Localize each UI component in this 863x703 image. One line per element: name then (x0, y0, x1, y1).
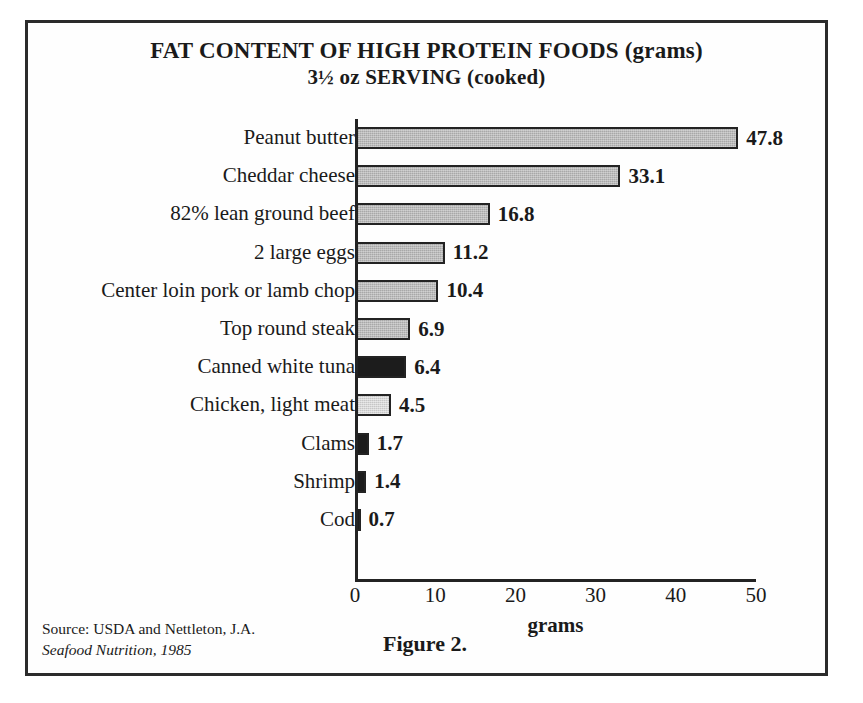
chart-title: FAT CONTENT OF HIGH PROTEIN FOODS (grams… (28, 37, 825, 91)
source-note-line-2: Seafood Nutrition, 1985 (42, 640, 255, 661)
bar-value-label: 10.4 (446, 280, 483, 301)
category-label: Center loin pork or lamb chop (35, 280, 364, 301)
bar-container: 33.1 (355, 157, 825, 195)
bar-row: 2 large eggs11.2 (28, 234, 825, 272)
bar-container: 1.4 (355, 463, 825, 501)
bar-row: Chicken, light meat4.5 (28, 386, 825, 424)
bar-row: Cod0.7 (28, 501, 825, 539)
x-tick-label: 20 (505, 585, 526, 606)
category-label: Peanut butter (35, 127, 364, 148)
bar (355, 242, 445, 264)
category-label: Cheddar cheese (35, 165, 364, 186)
bar-container: 1.7 (355, 425, 825, 463)
bar-value-label: 1.7 (377, 433, 403, 454)
bar (355, 280, 438, 302)
figure-frame: FAT CONTENT OF HIGH PROTEIN FOODS (grams… (25, 20, 828, 676)
bar-value-label: 6.4 (414, 357, 440, 378)
bar (355, 356, 406, 378)
category-label: Cod (35, 509, 364, 530)
bar-container: 6.9 (355, 310, 825, 348)
category-label: Shrimp (35, 471, 364, 492)
bar-row: 82% lean ground beef16.8 (28, 195, 825, 233)
bar-value-label: 0.7 (369, 509, 395, 530)
bar-container: 47.8 (355, 119, 825, 157)
source-note: Source: USDA and Nettleton, J.A. Seafood… (42, 619, 255, 661)
bar-container: 11.2 (355, 234, 825, 272)
category-label: Canned white tuna (35, 356, 364, 377)
chart-title-line-1: FAT CONTENT OF HIGH PROTEIN FOODS (grams… (28, 37, 825, 65)
category-label: Clams (35, 433, 364, 454)
chart-title-line-2: 3½ oz SERVING (cooked) (28, 65, 825, 91)
category-label: Chicken, light meat (35, 394, 364, 415)
bar-row: Shrimp1.4 (28, 463, 825, 501)
plot-area: Peanut butter47.8Cheddar cheese33.182% l… (28, 119, 825, 579)
bar-row: Center loin pork or lamb chop10.4 (28, 272, 825, 310)
bar (355, 318, 410, 340)
bar-row: Cheddar cheese33.1 (28, 157, 825, 195)
bar-value-label: 16.8 (498, 204, 535, 225)
category-label: 82% lean ground beef (35, 203, 364, 224)
bar-container: 10.4 (355, 272, 825, 310)
bar-container: 0.7 (355, 501, 825, 539)
bar (355, 203, 490, 225)
bar-row: Peanut butter47.8 (28, 119, 825, 157)
source-note-line-1: Source: USDA and Nettleton, J.A. (42, 619, 255, 640)
bar-value-label: 4.5 (399, 395, 425, 416)
x-tick-label: 0 (350, 585, 361, 606)
bar-container: 16.8 (355, 195, 825, 233)
bar-row: Clams1.7 (28, 425, 825, 463)
x-tick-label: 40 (665, 585, 686, 606)
category-label: Top round steak (35, 318, 364, 339)
category-label: 2 large eggs (35, 242, 364, 263)
bar-container: 6.4 (355, 348, 825, 386)
x-axis-line (355, 579, 756, 582)
x-axis-tick-labels: 01020304050 (355, 585, 756, 611)
x-tick-label: 10 (425, 585, 446, 606)
bar-value-label: 6.9 (418, 319, 444, 340)
bar-value-label: 33.1 (628, 166, 665, 187)
x-tick-label: 50 (746, 585, 767, 606)
bar-row: Canned white tuna6.4 (28, 348, 825, 386)
bar-container: 4.5 (355, 386, 825, 424)
bar-value-label: 47.8 (746, 128, 783, 149)
x-tick-label: 30 (585, 585, 606, 606)
bar-row: Top round steak6.9 (28, 310, 825, 348)
bar-value-label: 1.4 (374, 471, 400, 492)
bar-value-label: 11.2 (453, 242, 489, 263)
bar (355, 127, 738, 149)
bar (355, 165, 620, 187)
bar (355, 394, 391, 416)
figure-caption: Figure 2. (383, 631, 467, 657)
y-axis-spine (355, 119, 358, 582)
